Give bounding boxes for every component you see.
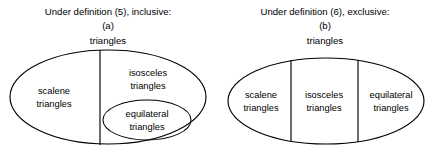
panel-a-region-isosceles: isosceles triangles: [129, 68, 168, 91]
panel-b-equilateral-line1: equilateral: [370, 90, 413, 100]
panel-a-isosceles-line2: triangles: [130, 81, 165, 91]
panel-b-scalene-line2: triangles: [243, 103, 278, 113]
panel-b-region-scalene: scalene triangles: [243, 90, 278, 113]
panel-b-letter: (b): [319, 20, 331, 31]
panel-a-region-equilateral: equilateral triangles: [126, 109, 169, 132]
panel-b-scalene-line1: scalene: [245, 90, 277, 100]
panel-a-scalene-line1: scalene: [38, 86, 70, 96]
panel-a-root-label: triangles: [90, 35, 126, 46]
triangle-definitions-figure: Under definition (5), inclusive: (a) tri…: [0, 0, 433, 148]
panel-b-region-equilateral: equilateral triangles: [370, 90, 413, 113]
panel-b-region-isosceles: isosceles triangles: [305, 90, 344, 113]
panel-a-scalene-line2: triangles: [36, 99, 71, 109]
panel-a-region-scalene: scalene triangles: [36, 86, 71, 109]
panel-b-equilateral-line2: triangles: [373, 103, 408, 113]
panel-a-caption: Under definition (5), inclusive:: [45, 6, 171, 17]
panel-b-root-label: triangles: [307, 35, 343, 46]
panel-a: Under definition (5), inclusive: (a) tri…: [10, 6, 206, 145]
panel-b: Under definition (6), exclusive: (b) tri…: [228, 6, 424, 144]
panel-b-isosceles-line2: triangles: [306, 103, 341, 113]
panel-a-letter: (a): [102, 20, 114, 31]
panel-a-equilateral-line1: equilateral: [126, 109, 169, 119]
panel-a-isosceles-line1: isosceles: [129, 68, 168, 78]
panel-a-equilateral-line2: triangles: [129, 122, 164, 132]
panel-b-caption: Under definition (6), exclusive:: [260, 6, 389, 17]
panel-a-inner-ellipse: [103, 100, 191, 140]
panel-b-outer-ellipse: [228, 58, 424, 144]
figure-canvas: Under definition (5), inclusive: (a) tri…: [0, 0, 433, 148]
panel-b-isosceles-line1: isosceles: [305, 90, 344, 100]
